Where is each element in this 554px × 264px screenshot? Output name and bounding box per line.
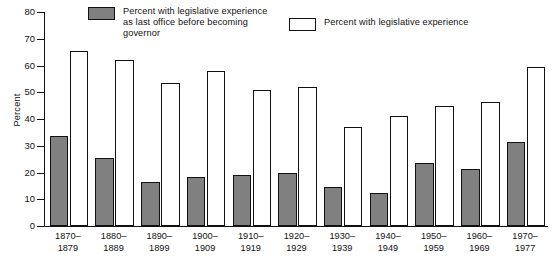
bar-legislative-as-last-office [461, 169, 480, 227]
x-tick-label: 1960– 1969 [457, 231, 503, 254]
plot-area [45, 12, 548, 226]
bar-group [461, 12, 500, 226]
bar-legislative-experience [390, 116, 409, 226]
y-tick-mark [37, 173, 45, 174]
bar-legislative-experience [253, 90, 272, 226]
x-tick-label: 1910– 1919 [228, 231, 274, 254]
bar-group [233, 12, 272, 226]
bar-legislative-experience [435, 106, 454, 226]
bar-legislative-as-last-office [233, 175, 252, 226]
bar-legislative-experience [344, 127, 363, 226]
y-tick-mark [37, 226, 45, 227]
bar-legislative-experience [70, 51, 89, 226]
bar-legislative-experience [161, 83, 180, 226]
bar-legislative-as-last-office [95, 158, 114, 226]
y-tick-mark [37, 119, 45, 120]
bar-group [324, 12, 363, 226]
bar-legislative-as-last-office [278, 173, 297, 227]
y-tick-mark [37, 92, 45, 93]
bar-legislative-experience [207, 71, 226, 226]
bar-group [370, 12, 409, 226]
bar-legislative-as-last-office [415, 163, 434, 226]
x-tick-label: 1900– 1909 [182, 231, 228, 254]
y-tick-mark [37, 146, 45, 147]
y-tick-mark [37, 12, 45, 13]
y-tick-mark [37, 39, 45, 40]
bar-legislative-as-last-office [187, 177, 206, 226]
y-tick-mark [37, 199, 45, 200]
x-axis-labels: 1870– 18791880– 18891890– 18991900– 1909… [45, 231, 548, 261]
bar-chart: Percent with legislative experience as l… [0, 0, 554, 264]
bar-legislative-as-last-office [141, 182, 160, 226]
bar-legislative-as-last-office [507, 142, 526, 226]
bar-group [141, 12, 180, 226]
y-tick-label: 50 [5, 86, 35, 97]
y-tick-label: 40 [5, 113, 35, 124]
bar-group [50, 12, 89, 226]
bar-legislative-experience [527, 67, 546, 226]
x-tick-label: 1930– 1939 [319, 231, 365, 254]
bar-legislative-experience [298, 87, 317, 226]
y-tick-label: 0 [5, 220, 35, 231]
bar-legislative-experience [115, 60, 134, 226]
bar-legislative-as-last-office [370, 193, 389, 226]
bar-group [187, 12, 226, 226]
x-tick-label: 1950– 1959 [411, 231, 457, 254]
x-tick-label: 1880– 1889 [91, 231, 137, 254]
x-tick-label: 1940– 1949 [365, 231, 411, 254]
y-tick-label: 60 [5, 60, 35, 71]
y-tick-label: 20 [5, 167, 35, 178]
bar-legislative-as-last-office [324, 187, 343, 226]
bar-group [95, 12, 134, 226]
y-tick-label: 80 [5, 6, 35, 17]
bar-legislative-as-last-office [50, 136, 69, 226]
bar-group [415, 12, 454, 226]
y-tick-label: 10 [5, 193, 35, 204]
bar-legislative-experience [481, 102, 500, 226]
x-tick-label: 1970– 1977 [502, 231, 548, 254]
y-tick-label: 70 [5, 33, 35, 44]
y-tick-label: 30 [5, 140, 35, 151]
bar-group [278, 12, 317, 226]
x-tick-label: 1920– 1929 [274, 231, 320, 254]
y-tick-mark [37, 66, 45, 67]
x-tick-label: 1890– 1899 [136, 231, 182, 254]
bar-group [507, 12, 546, 226]
x-tick-label: 1870– 1879 [45, 231, 91, 254]
